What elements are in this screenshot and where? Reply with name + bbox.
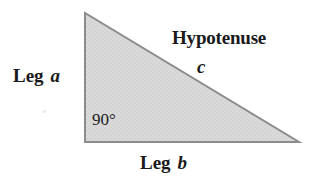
- leg-b-word: Leg: [140, 152, 171, 173]
- leg-b-label: Legb: [140, 153, 187, 172]
- leg-a-word: Leg: [13, 65, 44, 86]
- right-angle-label: 90°: [92, 111, 116, 128]
- hypotenuse-label: Hypotenuse: [172, 28, 266, 47]
- leg-a-variable: a: [51, 65, 61, 86]
- leg-a-label: Lega: [13, 66, 60, 85]
- scan-artifact-speck: [43, 110, 46, 113]
- hypotenuse-variable-label: c: [197, 57, 205, 76]
- right-triangle-figure: Hypotenuse c Lega Legb 90°: [0, 0, 310, 182]
- leg-b-variable: b: [178, 152, 188, 173]
